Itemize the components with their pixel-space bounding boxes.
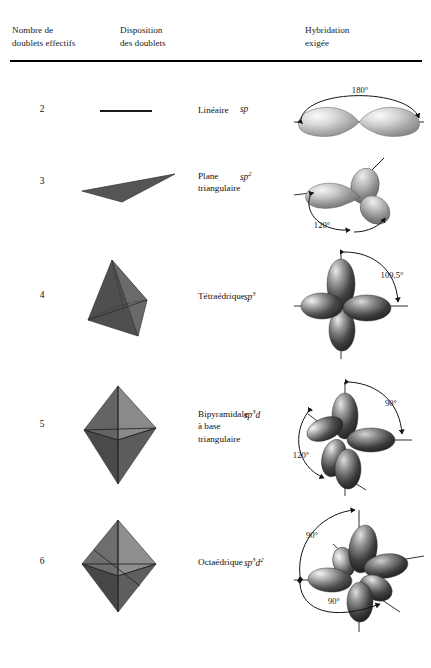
angle-label: 109,5° bbox=[381, 270, 404, 280]
table-row: 6 Octaédrique sp3d2 bbox=[0, 506, 431, 636]
sp3d-orbital-lobes-icon: 90° 120° bbox=[288, 374, 431, 499]
sp-orbital-lobes-icon: 180° bbox=[288, 72, 431, 150]
linear-segment-icon bbox=[72, 90, 194, 130]
angle-label: 90° bbox=[328, 596, 341, 606]
angle-label: 120° bbox=[314, 220, 331, 230]
row-hybridization-label: sp2 bbox=[240, 170, 292, 182]
octahedron-icon bbox=[72, 506, 194, 628]
header-count: Nombre de doublets effectifs bbox=[12, 24, 75, 49]
hyb-exponent: 2 bbox=[248, 170, 251, 177]
table-row: 3 Plane triangulaire sp2 bbox=[0, 158, 431, 238]
row-hybridization-label: sp bbox=[240, 104, 292, 114]
table-row: 2 Linéaire sp bbox=[0, 90, 431, 150]
angle-label: 90° bbox=[385, 398, 398, 408]
sp3-orbital-lobes-icon: 109,5° bbox=[288, 244, 431, 362]
triangle-plane-icon bbox=[72, 158, 194, 218]
hybridization-table-figure: Nombre de doublets effectifs Disposition… bbox=[0, 0, 431, 668]
hyb-tail: d bbox=[256, 410, 261, 420]
angle-label: 90° bbox=[306, 530, 319, 540]
header-arrangement: Disposition des doublets bbox=[120, 24, 166, 49]
trigonal-bipyramid-icon bbox=[72, 378, 194, 493]
hyb-exponent-2: 2 bbox=[260, 556, 263, 563]
tetrahedron-icon bbox=[72, 248, 194, 353]
table-row: 5 Bipyramidale à base triangulaire sp3d bbox=[0, 378, 431, 498]
hyb-exponent: 3 bbox=[252, 290, 255, 297]
header-divider-rule bbox=[10, 60, 422, 62]
angle-label: 180° bbox=[352, 85, 369, 95]
table-row: 4 Tétraédrique sp3 bbox=[0, 248, 431, 358]
angle-label: 120° bbox=[293, 450, 310, 460]
header-hybridization: Hybridation exigée bbox=[305, 24, 349, 49]
sp2-orbital-lobes-icon: 120° bbox=[288, 152, 431, 244]
sp3d2-orbital-lobes-icon: 90° 90° bbox=[288, 504, 431, 636]
hyb-base: sp bbox=[240, 104, 248, 114]
table-header: Nombre de doublets effectifs Disposition… bbox=[0, 24, 431, 62]
